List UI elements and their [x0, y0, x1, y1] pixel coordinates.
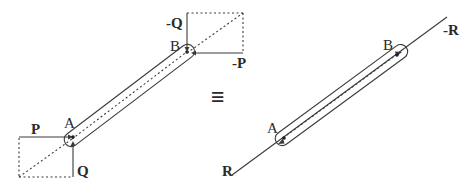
two-force-member-diagram: A B P Q -Q -P ≡ A B R -R	[0, 0, 473, 195]
member-capsule-right	[272, 42, 410, 149]
label-p: P	[31, 121, 40, 137]
label-neg-p: -P	[232, 55, 246, 71]
label-r: R	[222, 163, 233, 179]
label-a-right: A	[267, 120, 278, 136]
point-a-left	[71, 135, 75, 139]
left-figure	[19, 13, 243, 177]
member-capsule-left	[61, 42, 197, 150]
equivalence-symbol: ≡	[211, 84, 225, 110]
line-of-action-r	[232, 17, 447, 175]
force-parallelogram-b	[187, 13, 243, 53]
point-a-right	[282, 136, 286, 140]
label-neg-r: -R	[443, 22, 459, 38]
point-b-right	[395, 53, 399, 57]
right-figure	[232, 17, 447, 175]
force-parallelogram-a	[19, 138, 73, 177]
label-a-left: A	[64, 115, 75, 131]
label-b-left: B	[170, 38, 180, 54]
label-q: Q	[77, 163, 89, 179]
label-b-right: B	[383, 37, 393, 53]
label-neg-q: -Q	[166, 15, 183, 31]
